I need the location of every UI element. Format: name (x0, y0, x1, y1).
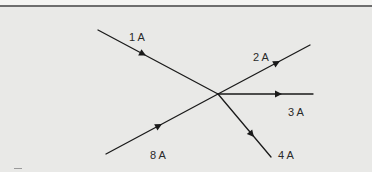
branch-2a-label: 2 A (253, 52, 269, 63)
branch-1a-label: 1 A (129, 32, 145, 43)
branch-4a-label: 4 A (278, 150, 294, 161)
branch-4a-wire (218, 94, 271, 157)
arrow-3a-icon (275, 91, 282, 98)
branch-3a-label: 3 A (288, 107, 304, 118)
arrow-2a-icon (272, 58, 281, 67)
kirchhoff-junction-figure: 1 A 2 A 3 A 4 A 8 A (0, 0, 372, 172)
branch-8a-wire (106, 94, 218, 154)
branch-8a-label: 8 A (150, 150, 166, 161)
corner-mark (14, 168, 22, 169)
arrow-8a-icon (154, 121, 163, 130)
junction-diagram (0, 0, 372, 172)
arrow-1a-icon (138, 49, 147, 58)
branch-1a-wire (98, 30, 218, 94)
